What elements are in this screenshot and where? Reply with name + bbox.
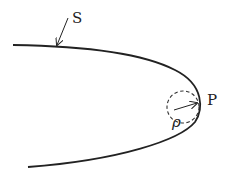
pointer-arrow-s (57, 18, 68, 45)
curve-s (13, 45, 200, 167)
label-rho: ρ (171, 113, 181, 131)
radius-arrow (174, 103, 197, 110)
label-p: P (207, 91, 217, 109)
label-s: S (72, 9, 82, 27)
curvature-diagram: S P ρ (0, 0, 235, 183)
